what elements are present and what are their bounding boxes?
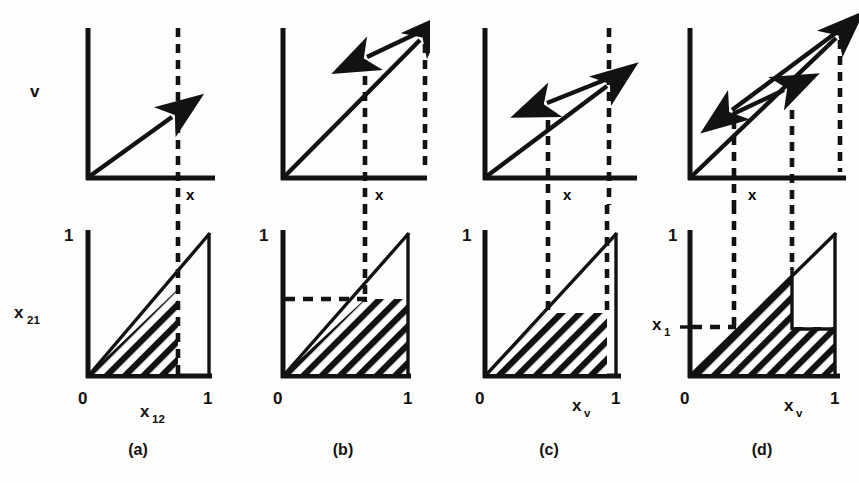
- bottom-hatched-region: [284, 299, 408, 374]
- panel-caption-c: (c): [539, 441, 559, 458]
- panel-caption-d: (d): [752, 441, 772, 458]
- bottom-y-top-tick: 1: [259, 226, 268, 245]
- panel-caption-a: (a): [128, 441, 148, 458]
- bottom-x-tick-1: 1: [203, 389, 212, 408]
- top-x-axis-label: x: [748, 186, 757, 203]
- panel-b-svg: x 1 0 1 (b): [215, 0, 430, 483]
- panel-a-bottom-plot: 1 x 21 B A 0 1 x: [14, 205, 215, 425]
- bottom-x-tick-0: 0: [475, 389, 484, 408]
- bottom-hatched-region: [486, 313, 607, 374]
- svg-text:v: v: [796, 407, 803, 419]
- bottom-x-tick-0: 0: [680, 389, 689, 408]
- bottom-y-top-tick: 1: [64, 226, 73, 245]
- bottom-hatched-region-band: [691, 327, 835, 374]
- bottom-y-top-tick: 1: [462, 226, 471, 245]
- top-x-axis-label: x: [186, 186, 195, 203]
- panel-d-top-plot: x: [688, 28, 846, 205]
- top-trajectory-arrow-back: [732, 32, 837, 110]
- top-trajectory-arrow-up: [285, 40, 420, 176]
- svg-text:v: v: [584, 407, 591, 419]
- panel-d: x 1 x 1 0: [644, 0, 859, 483]
- top-x-axis-label: x: [375, 186, 384, 203]
- top-x-axis-label: x: [563, 186, 572, 203]
- panel-a-svg: v x 1 x 21: [0, 0, 215, 483]
- panel-c-top-plot: x: [483, 28, 637, 205]
- svg-text:21: 21: [27, 314, 40, 326]
- panel-b-top-plot: x: [281, 28, 427, 205]
- svg-text:x: x: [140, 402, 150, 421]
- panel-caption-b: (b): [333, 441, 353, 458]
- panel-a: v x 1 x 21: [0, 0, 215, 483]
- bottom-x-tick-1: 1: [403, 389, 412, 408]
- bottom-y-axis-label-x21: x 21: [14, 303, 40, 326]
- panel-c-bottom-plot: 1 0 1 x v: [462, 205, 621, 419]
- bottom-x-tick-1: 1: [830, 389, 839, 408]
- panel-b: x 1 0 1 (b): [215, 0, 430, 483]
- bottom-hatched-region-triangle: [734, 267, 792, 327]
- bottom-x-tick-0: 0: [273, 389, 282, 408]
- svg-text:12: 12: [152, 413, 165, 425]
- bottom-y-top-tick: 1: [668, 226, 677, 245]
- panel-b-bottom-plot: 1 0 1: [259, 205, 412, 408]
- panel-c: x 1 0 1 x v (c): [429, 0, 644, 483]
- top-trajectory-arrow-up: [487, 86, 607, 176]
- bottom-x-axis-label-xv: x v: [572, 396, 591, 419]
- top-y-axis-label-v: v: [30, 82, 40, 101]
- svg-text:x: x: [14, 303, 24, 322]
- panel-d-svg: x 1 x 1 0: [644, 0, 859, 483]
- svg-text:x: x: [784, 396, 794, 415]
- svg-text:x: x: [572, 396, 582, 415]
- panel-d-bottom-plot: 1 x 1 0 1: [652, 205, 840, 419]
- bottom-x-axis-label-x12: x 12: [140, 402, 165, 425]
- panel-c-svg: x 1 0 1 x v (c): [429, 0, 644, 483]
- top-trajectory-arrow-1: [90, 117, 172, 176]
- svg-text:x: x: [652, 315, 662, 334]
- top-trajectory-arrow-up: [692, 38, 836, 176]
- svg-text:1: 1: [664, 326, 671, 338]
- bottom-x-tick-1: 1: [611, 389, 620, 408]
- figure-container: v x 1 x 21: [0, 0, 859, 483]
- bottom-x-axis-label-xv: x v: [784, 396, 803, 419]
- bottom-y-axis-label-x1: x 1: [652, 315, 671, 338]
- panel-a-top-plot: v x: [30, 28, 215, 205]
- bottom-x-tick-0: 0: [78, 389, 87, 408]
